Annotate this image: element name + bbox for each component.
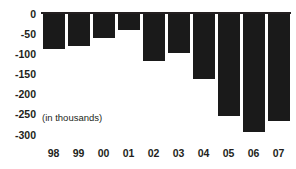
bar	[118, 14, 140, 30]
x-axis-tick-label: 06	[241, 148, 266, 159]
y-axis-tick-label: -50	[0, 29, 36, 40]
y-axis-tick-label: -200	[0, 89, 36, 100]
x-axis-tick-label: 98	[41, 148, 66, 159]
bar	[93, 14, 115, 38]
bar	[43, 14, 65, 50]
x-axis-tick-label: 01	[116, 148, 141, 159]
x-axis-tick-label: 05	[216, 148, 241, 159]
x-axis: 98990001020304050607	[41, 148, 291, 166]
x-axis-tick-label: 99	[66, 148, 91, 159]
bar	[143, 14, 165, 61]
bar	[268, 14, 290, 122]
bar	[68, 14, 90, 46]
x-axis-tick-label: 03	[166, 148, 191, 159]
y-axis-tick-label: -150	[0, 69, 36, 80]
x-axis-tick-label: 04	[191, 148, 216, 159]
bars-container	[41, 14, 291, 145]
bar-chart-figure: 0-50-100-150-200-250-300 (in thousands) …	[0, 0, 296, 169]
bar	[168, 14, 190, 53]
y-axis: 0-50-100-150-200-250-300	[0, 0, 36, 169]
units-annotation: (in thousands)	[42, 113, 102, 123]
x-axis-tick-label: 07	[266, 148, 291, 159]
bar	[193, 14, 215, 79]
bar	[218, 14, 240, 117]
y-axis-tick-label: -250	[0, 109, 36, 120]
x-axis-tick-label: 00	[91, 148, 116, 159]
y-axis-tick-label: -100	[0, 49, 36, 60]
y-axis-tick-label: 0	[0, 8, 36, 19]
bar	[243, 14, 265, 132]
x-axis-tick-label: 02	[141, 148, 166, 159]
y-axis-tick-label: -300	[0, 129, 36, 140]
